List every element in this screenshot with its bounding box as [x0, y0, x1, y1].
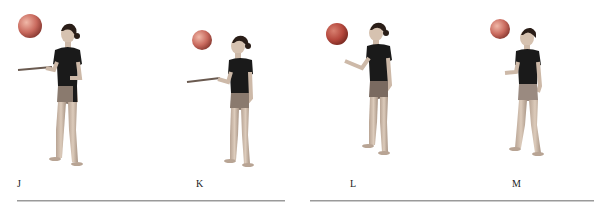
gymnast-figure [505, 28, 544, 156]
panel-label: K [196, 178, 204, 189]
gymnast-figure [187, 36, 254, 167]
panel-label: J [17, 178, 21, 189]
panel-k: K [187, 30, 254, 189]
panel-label: M [512, 178, 521, 189]
divider-rule-left [17, 200, 285, 202]
ball-icon [18, 14, 42, 38]
figure-canvas: J K [0, 0, 594, 208]
ball-icon [326, 23, 348, 45]
gymnast-figure [345, 23, 392, 155]
ball-icon [490, 19, 510, 39]
gymnast-figure [18, 24, 83, 166]
divider-rule-right [310, 200, 594, 202]
panel-m: M [490, 19, 544, 189]
panel-j: J [17, 14, 83, 189]
ball-icon [192, 30, 212, 50]
panel-label: L [350, 178, 356, 189]
panel-l: L [326, 23, 392, 189]
